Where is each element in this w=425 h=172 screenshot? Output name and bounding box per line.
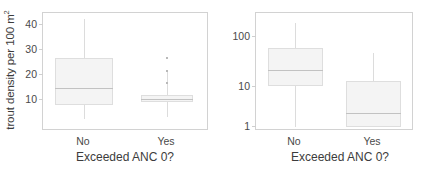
box-left-no bbox=[55, 58, 113, 105]
x-tick-right-no: No bbox=[287, 135, 300, 147]
x-tick-left-no: No bbox=[76, 135, 89, 147]
median-left-no bbox=[55, 88, 113, 89]
whisker-right-yes bbox=[373, 53, 374, 81]
y-tick-right-10: 10 bbox=[238, 80, 256, 92]
y-tick-left-10: 10 bbox=[25, 93, 43, 105]
y-axis-label-left: trout density per 100 m2 bbox=[2, 4, 18, 136]
y-tick-right-100: 100 bbox=[232, 30, 256, 42]
panel-trout-density: trout density per 100 m2 40 30 20 10 No … bbox=[0, 0, 213, 172]
y-tick-left-30: 30 bbox=[25, 43, 43, 55]
plot-area-left: 40 30 20 10 bbox=[42, 12, 208, 130]
median-left-yes bbox=[141, 99, 193, 100]
y-axis-label-left-superscript: 2 bbox=[2, 10, 11, 14]
x-tick-right-yes: Yes bbox=[363, 135, 380, 147]
box-right-yes bbox=[346, 81, 401, 127]
y-tick-right-1: 1 bbox=[244, 120, 256, 132]
whisker-left-yes bbox=[167, 71, 168, 117]
box-right-no bbox=[268, 48, 323, 86]
y-tick-left-40: 40 bbox=[25, 18, 43, 30]
x-axis-label-left: Exceeded ANC 0? bbox=[76, 150, 174, 164]
outlier-left-yes-1 bbox=[166, 82, 168, 84]
x-tick-left-yes: Yes bbox=[157, 135, 174, 147]
y-axis-label-left-text: trout density per 100 m bbox=[4, 14, 16, 129]
y-tick-left-20: 20 bbox=[25, 68, 43, 80]
outlier-left-yes-3 bbox=[166, 57, 168, 59]
x-axis-label-right: Exceeded ANC 0? bbox=[291, 150, 389, 164]
boxplot-figure: trout density per 100 m2 40 30 20 10 No … bbox=[0, 0, 425, 172]
median-right-yes bbox=[346, 113, 401, 114]
outlier-left-yes-2 bbox=[166, 70, 168, 72]
plot-area-right: 100 10 1 bbox=[255, 12, 413, 130]
median-right-no bbox=[268, 70, 323, 71]
